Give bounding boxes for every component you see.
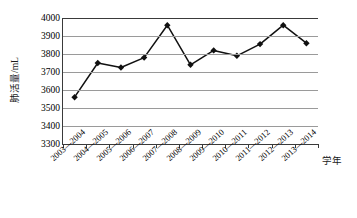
x-axis-title: 学年 [322, 156, 342, 167]
x-axis-tick-labels: 2003—20042004—20052005—20062006—20072007… [0, 0, 357, 218]
line-chart: 肺活量/mL 33003400350036003700380039004000 … [0, 0, 357, 218]
